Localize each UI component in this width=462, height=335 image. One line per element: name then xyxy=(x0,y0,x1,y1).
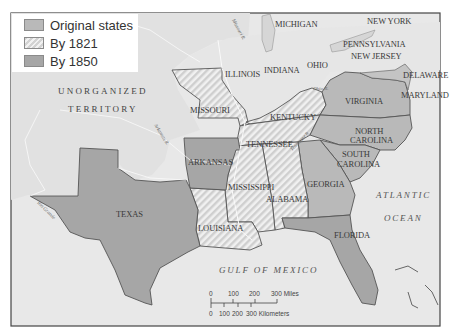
label-new-york: NEW YORK xyxy=(367,16,412,26)
label-north-carolina-2: CAROLINA xyxy=(350,135,394,145)
swatch-by-1850 xyxy=(24,55,44,67)
label-ocean: OCEAN xyxy=(384,213,423,223)
label-virginia: VIRGINIA xyxy=(345,96,384,106)
label-south-carolina-1: SOUTH xyxy=(342,149,370,159)
svg-text:300 Miles: 300 Miles xyxy=(271,290,300,297)
label-michigan: MICHIGAN xyxy=(275,19,318,29)
svg-text:0: 0 xyxy=(209,290,213,297)
label-georgia: GEORGIA xyxy=(307,179,346,189)
label-louisiana: LOUISIANA xyxy=(198,223,244,233)
legend-label: By 1821 xyxy=(50,36,98,51)
legend-label: By 1850 xyxy=(50,54,98,69)
label-territory: TERRITORY xyxy=(68,104,138,114)
label-maryland: MARYLAND xyxy=(401,90,449,100)
label-alabama: ALABAMA xyxy=(266,194,309,204)
label-pennsylvania: PENNSYLVANIA xyxy=(343,39,407,49)
label-illinois: ILLINOIS xyxy=(225,69,260,79)
legend-label: Original states xyxy=(50,18,133,33)
svg-text:200: 200 xyxy=(232,310,243,317)
legend-item-by-1821: By 1821 xyxy=(24,36,98,50)
label-unorganized: UNORGANIZED xyxy=(58,86,148,96)
label-florida: FLORIDA xyxy=(334,230,371,240)
label-indiana: INDIANA xyxy=(264,65,301,75)
label-gulf-of-mexico: GULF OF MEXICO xyxy=(219,265,318,275)
swatch-by-1821 xyxy=(24,37,44,49)
label-tennessee: TENNESSEE xyxy=(246,139,293,149)
legend-item-original-states: Original states xyxy=(24,18,133,32)
svg-text:100: 100 xyxy=(219,310,230,317)
map-legend: Original states By 1821 By 1850 xyxy=(12,14,138,72)
label-kentucky: KENTUCKY xyxy=(270,112,316,122)
svg-text:300 Kilometers: 300 Kilometers xyxy=(246,310,290,317)
svg-text:100: 100 xyxy=(228,290,239,297)
legend-item-by-1850: By 1850 xyxy=(24,54,98,68)
swatch-original-states xyxy=(24,19,44,31)
label-missouri: MISSOURI xyxy=(190,105,230,115)
label-new-jersey: NEW JERSEY xyxy=(351,51,402,61)
label-ohio-river: Ohio R. xyxy=(313,86,329,91)
label-texas: TEXAS xyxy=(116,209,143,219)
label-mississippi: MISSISSIPPI xyxy=(228,182,274,192)
label-south-carolina-2: CAROLINA xyxy=(337,159,381,169)
svg-text:200: 200 xyxy=(249,290,260,297)
svg-text:0: 0 xyxy=(209,310,213,317)
label-arkansas: ARKANSAS xyxy=(188,157,233,167)
label-ohio: OHIO xyxy=(307,60,328,70)
label-atlantic: ATLANTIC xyxy=(375,190,431,200)
label-delaware: DELAWARE xyxy=(403,70,448,80)
